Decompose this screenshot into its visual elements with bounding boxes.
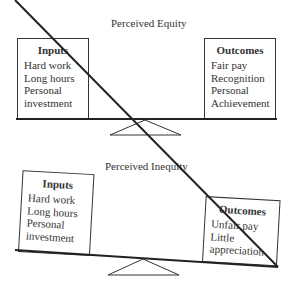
inequity-beam (15, 0, 278, 267)
inequity-fulcrum-icon (108, 259, 179, 275)
balance-scales (0, 0, 291, 284)
